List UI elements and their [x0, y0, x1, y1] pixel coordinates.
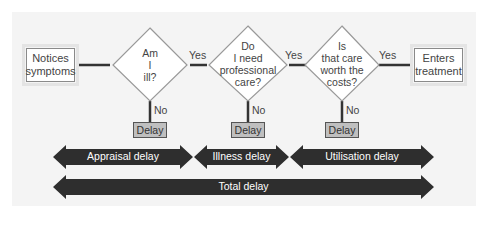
decision-2-line: professional [213, 64, 283, 76]
yes-label-1: Yes [189, 49, 206, 61]
start-box-notices-symptoms: Notices symptoms [26, 48, 75, 82]
decision-1-text: Am I ill? [125, 47, 175, 83]
delay-label: Delay [235, 124, 262, 136]
decision-1-line: Am [125, 47, 175, 59]
delay-box-1: Delay [133, 122, 167, 138]
end-box-enters-treatment: Enters treatment [414, 48, 463, 82]
yes-label-3: Yes [379, 49, 396, 61]
delay-label: Delay [137, 124, 164, 136]
decision-3-text: Is that care worth the costs? [310, 40, 374, 88]
total-delay-label: Total delay [66, 180, 421, 192]
decision-2-text: Do I need professional care? [213, 40, 283, 88]
delay-label: Delay [329, 124, 356, 136]
decision-3-line: Is [310, 40, 374, 52]
illness-delay-label: Illness delay [207, 150, 276, 162]
yes-label-2: Yes [285, 49, 302, 61]
decision-3-line: worth the [310, 64, 374, 76]
end-label: Enters treatment [415, 52, 462, 78]
no-label-3: No [346, 104, 359, 116]
decision-2-line: care? [213, 76, 283, 88]
decision-3-line: costs? [310, 76, 374, 88]
delay-box-2: Delay [231, 122, 265, 138]
no-label-2: No [252, 104, 265, 116]
delay-box-3: Delay [325, 122, 359, 138]
no-label-1: No [154, 104, 167, 116]
utilisation-delay-label: Utilisation delay [303, 150, 421, 162]
decision-1-line: I [125, 59, 175, 71]
decision-2-line: I need [213, 52, 283, 64]
decision-3-line: that care [310, 52, 374, 64]
decision-2-line: Do [213, 40, 283, 52]
appraisal-delay-label: Appraisal delay [66, 150, 180, 162]
start-label: Notices symptoms [25, 52, 75, 78]
decision-1-line: ill? [125, 71, 175, 83]
